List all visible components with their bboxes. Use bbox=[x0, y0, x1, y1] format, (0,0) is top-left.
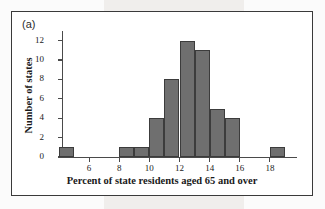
histogram-bar bbox=[225, 118, 240, 157]
figure-frame: (a) Number of states Percent of state re… bbox=[11, 11, 313, 196]
histogram-bar bbox=[195, 50, 210, 157]
histogram-bar bbox=[210, 109, 225, 157]
histogram-bar bbox=[134, 147, 149, 157]
histogram-bar bbox=[164, 79, 179, 157]
histogram-bar bbox=[119, 147, 134, 157]
histogram-bar bbox=[180, 41, 195, 157]
histogram-bar bbox=[59, 147, 74, 157]
histogram-plot: (a) Number of states Percent of state re… bbox=[12, 12, 312, 195]
histogram-bar bbox=[270, 147, 285, 157]
histogram-bars bbox=[12, 12, 312, 195]
histogram-bar bbox=[149, 118, 164, 157]
